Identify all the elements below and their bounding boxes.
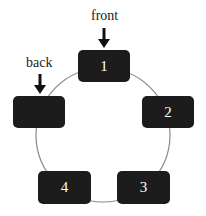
node-2: 2 — [142, 96, 194, 128]
node-1: 1 — [78, 50, 130, 82]
back-arrow — [34, 74, 46, 94]
node-5-empty — [13, 96, 65, 128]
front-label: front — [91, 8, 118, 24]
node-3: 3 — [117, 171, 170, 204]
front-arrow — [98, 28, 110, 48]
back-label: back — [26, 55, 52, 71]
node-4: 4 — [38, 171, 91, 204]
